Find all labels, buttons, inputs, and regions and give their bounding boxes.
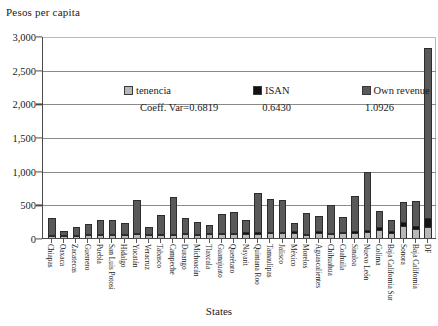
stacked-bar[interactable] [424, 48, 432, 238]
x-axis-tick-label: Michoacán [193, 244, 200, 276]
stacked-bar[interactable] [85, 224, 93, 238]
stacked-bar[interactable] [364, 172, 372, 238]
bar-column[interactable] [276, 37, 288, 238]
coeff-var-row: Coeff. Var=0.6819 0.6430 1.0926 [90, 102, 438, 113]
bar-segment-tenencia [389, 234, 395, 238]
bar-segment-tenencia [86, 236, 92, 238]
bar-column[interactable] [325, 37, 337, 238]
stacked-bar[interactable] [194, 222, 202, 238]
bar-column[interactable] [204, 37, 216, 238]
bar-column[interactable] [349, 37, 361, 238]
bar-segment-own-revenue [243, 221, 249, 234]
bar-column[interactable] [192, 37, 204, 238]
legend-item-tenencia[interactable]: tenencia [124, 85, 171, 96]
stacked-bar[interactable] [400, 202, 408, 238]
y-axis-tick-label: 1,500 [12, 133, 36, 144]
bar-segment-tenencia [340, 234, 346, 238]
x-axis-tick-label: Durango [181, 244, 188, 270]
legend-item-own-revenue[interactable]: Own revenue [362, 85, 430, 96]
coeff-var-isan: 0.6430 [262, 102, 291, 113]
bar-segment-tenencia [207, 235, 213, 238]
stacked-bar[interactable] [291, 223, 299, 238]
bar-segment-isan [425, 219, 431, 228]
bar-column[interactable] [264, 37, 276, 238]
stacked-bar[interactable] [412, 201, 420, 238]
legend-label-tenencia: tenencia [136, 85, 171, 96]
x-label-cell: Tlaxcala [203, 243, 215, 305]
stacked-bar[interactable] [267, 199, 275, 238]
bar-segment-tenencia [425, 228, 431, 238]
bar-column[interactable] [410, 37, 422, 238]
legend-swatch-icon-tenencia [124, 86, 133, 95]
bar-column[interactable] [313, 37, 325, 238]
bar-column[interactable] [301, 37, 313, 238]
bar-column[interactable] [216, 37, 228, 238]
bar-column[interactable] [386, 37, 398, 238]
bar-column[interactable] [58, 37, 70, 238]
y-axis-title: Pesos per capita [6, 6, 80, 18]
stacked-bar[interactable] [279, 200, 287, 238]
stacked-bar[interactable] [145, 227, 153, 238]
stacked-bar[interactable] [254, 193, 262, 238]
bar-segment-own-revenue [231, 213, 237, 234]
stacked-bar[interactable] [376, 211, 384, 238]
x-label-cell: Querétaro [227, 243, 239, 305]
bar-segment-own-revenue [158, 216, 164, 235]
x-label-cell: Sonora [398, 243, 410, 305]
stacked-bar[interactable] [388, 220, 396, 238]
stacked-bar[interactable] [109, 220, 117, 238]
bar-column[interactable] [70, 37, 82, 238]
stacked-bar[interactable] [170, 197, 178, 238]
x-label-cell: Chiapas [45, 243, 57, 305]
x-axis-tick-label: Hidalgo [120, 244, 127, 268]
bar-column[interactable] [240, 37, 252, 238]
y-axis-tick-label: 2,500 [12, 65, 36, 76]
bar-column[interactable] [82, 37, 94, 238]
bar-column[interactable] [155, 37, 167, 238]
stacked-bar[interactable] [218, 214, 226, 238]
x-axis-tick-label: Oaxaca [59, 244, 66, 266]
stacked-bar[interactable] [351, 196, 359, 238]
bar-column[interactable] [289, 37, 301, 238]
bar-column[interactable] [422, 37, 434, 238]
x-label-cell: México [288, 243, 300, 305]
stacked-bar[interactable] [133, 200, 141, 238]
stacked-bar[interactable] [206, 225, 214, 238]
bar-column[interactable] [119, 37, 131, 238]
bar-column[interactable] [46, 37, 58, 238]
bar-column[interactable] [179, 37, 191, 238]
bar-column[interactable] [95, 37, 107, 238]
bar-segment-own-revenue [389, 221, 395, 232]
stacked-bar[interactable] [339, 217, 347, 238]
bar-column[interactable] [252, 37, 264, 238]
x-axis-tick-label: Chihuahua [327, 244, 334, 276]
bar-column[interactable] [107, 37, 119, 238]
stacked-bar[interactable] [327, 205, 335, 238]
x-label-cell: Tabasco [154, 243, 166, 305]
stacked-bar[interactable] [242, 220, 250, 238]
bar-segment-own-revenue [292, 224, 298, 232]
stacked-bar[interactable] [182, 218, 190, 238]
stacked-bar[interactable] [60, 231, 68, 238]
bar-column[interactable] [373, 37, 385, 238]
bar-column[interactable] [143, 37, 155, 238]
stacked-bar[interactable] [157, 215, 165, 238]
stacked-bar[interactable] [303, 213, 311, 238]
stacked-bar[interactable] [121, 223, 129, 238]
stacked-bar[interactable] [97, 220, 105, 238]
x-axis-tick-label: Tabasco [157, 244, 164, 268]
stacked-bar[interactable] [230, 212, 238, 238]
bar-column[interactable] [337, 37, 349, 238]
bar-column[interactable] [228, 37, 240, 238]
bar-column[interactable] [131, 37, 143, 238]
stacked-bar[interactable] [48, 218, 56, 238]
bar-column[interactable] [167, 37, 179, 238]
legend-item-isan[interactable]: ISAN [253, 85, 290, 96]
stacked-bar[interactable] [73, 227, 81, 238]
x-label-cell: Guerrero [81, 243, 93, 305]
x-label-cell: Sinaloa [349, 243, 361, 305]
bar-column[interactable] [361, 37, 373, 238]
bar-column[interactable] [398, 37, 410, 238]
stacked-bar[interactable] [315, 216, 323, 238]
bar-segment-own-revenue [401, 203, 407, 223]
